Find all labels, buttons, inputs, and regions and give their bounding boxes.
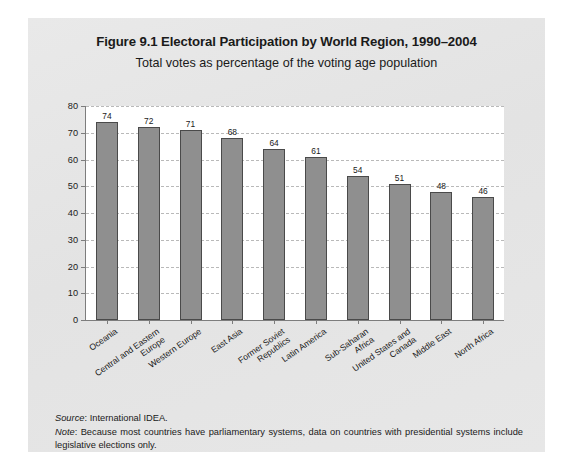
- y-tick-mark: [81, 133, 86, 134]
- y-tick-mark: [81, 293, 86, 294]
- x-tick-label: Former Soviet Republics: [237, 327, 293, 374]
- y-tick-label: 40: [68, 208, 78, 218]
- x-tick-mark: [483, 320, 484, 324]
- note-label: Note: [55, 427, 75, 437]
- bar: 68: [221, 138, 243, 320]
- source-line: Source: International IDEA.: [55, 412, 523, 425]
- plot-area: 01020304050607080 74727168646154514846 O…: [85, 106, 504, 321]
- bar: 64: [263, 149, 285, 320]
- x-tick-mark: [400, 320, 401, 324]
- x-tick-label: Oceania: [88, 327, 120, 353]
- y-tick-mark: [81, 320, 86, 321]
- x-tick-label: North Africa: [453, 327, 495, 361]
- x-tick-mark: [107, 320, 108, 324]
- note-text: : Because most countries have parliament…: [55, 427, 523, 450]
- bar: 72: [138, 127, 160, 320]
- y-tick-label: 70: [68, 128, 78, 138]
- y-tick-label: 30: [68, 235, 78, 245]
- bar-value-label: 46: [478, 186, 487, 196]
- bar-value-label: 71: [186, 119, 195, 129]
- bar: 71: [180, 130, 202, 320]
- note-line: Note: Because most countries have parlia…: [55, 426, 523, 452]
- bar-value-label: 74: [102, 111, 111, 121]
- x-tick-mark: [191, 320, 192, 324]
- bar-value-label: 68: [228, 127, 237, 137]
- y-tick-label: 50: [68, 181, 78, 191]
- source-label: Source: [55, 413, 84, 423]
- x-tick-label: East Asia: [210, 327, 245, 356]
- bar: 46: [472, 197, 494, 320]
- y-tick-label: 10: [68, 288, 78, 298]
- bar-value-label: 61: [311, 146, 320, 156]
- figure-panel: Figure 9.1 Electoral Participation by Wo…: [28, 18, 545, 452]
- bar-value-label: 51: [395, 173, 404, 183]
- bar-chart: 01020304050607080 74727168646154514846 O…: [28, 18, 545, 452]
- bar-value-label: 54: [353, 165, 362, 175]
- y-tick-mark: [81, 106, 86, 107]
- source-text: : International IDEA.: [84, 413, 167, 423]
- x-tick-mark: [358, 320, 359, 324]
- y-tick-label: 0: [73, 315, 78, 325]
- x-tick-mark: [441, 320, 442, 324]
- bar: 48: [430, 192, 452, 320]
- gridline: [86, 106, 504, 107]
- bar-value-label: 72: [144, 116, 153, 126]
- bar: 51: [389, 184, 411, 320]
- y-tick-mark: [81, 213, 86, 214]
- footnotes: Source: International IDEA. Note: Becaus…: [55, 412, 523, 452]
- bar: 54: [347, 176, 369, 320]
- x-tick-mark: [316, 320, 317, 324]
- x-tick-label: Middle East: [412, 327, 454, 361]
- y-tick-mark: [81, 267, 86, 268]
- bar-value-label: 48: [437, 181, 446, 191]
- bar-value-label: 64: [269, 138, 278, 148]
- x-tick-mark: [274, 320, 275, 324]
- bar: 61: [305, 157, 327, 320]
- y-tick-label: 60: [68, 155, 78, 165]
- bar: 74: [96, 122, 118, 320]
- y-tick-mark: [81, 240, 86, 241]
- x-tick-mark: [149, 320, 150, 324]
- x-tick-mark: [232, 320, 233, 324]
- y-tick-mark: [81, 186, 86, 187]
- y-tick-label: 80: [68, 101, 78, 111]
- y-tick-mark: [81, 160, 86, 161]
- y-tick-label: 20: [68, 262, 78, 272]
